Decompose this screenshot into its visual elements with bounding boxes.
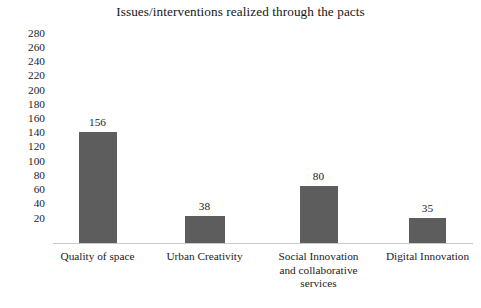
x-axis-category-label-line: Digital Innovation (375, 250, 480, 264)
bar: 35 (409, 218, 446, 243)
bar: 38 (185, 216, 225, 243)
chart-title: Issues/interventions realized through th… (0, 3, 481, 20)
y-axis-tick-label: 240 (5, 57, 45, 68)
y-axis-tick-label: 280 (5, 28, 45, 39)
x-axis-category-label-line: Social Innovation (266, 250, 371, 264)
x-axis-category-label: Quality of space (45, 250, 150, 264)
x-axis-category-label-line: Urban Creativity (152, 250, 257, 264)
y-axis-tick-label: 120 (5, 142, 45, 153)
x-axis-category-label: Urban Creativity (152, 250, 257, 264)
bar-value-label: 35 (422, 202, 433, 214)
y-axis-tick-label: 180 (5, 99, 45, 110)
y-axis-tick-label: 60 (5, 184, 45, 195)
bar: 80 (300, 186, 338, 243)
x-axis-category-label: Social Innovationand collaborativeservic… (266, 250, 371, 291)
y-axis-tick-label: 220 (5, 71, 45, 82)
x-axis-category-label-line: and collaborative (266, 264, 371, 278)
y-axis-tick-label: 260 (5, 42, 45, 53)
y-axis-tick-label: 160 (5, 113, 45, 124)
x-axis-category-label: Digital Innovation (375, 250, 480, 264)
plot-area: 20406080100120140160180200220240260280 1… (53, 38, 473, 244)
bar-chart: Issues/interventions realized through th… (0, 0, 481, 308)
x-axis-category-label-line: services (266, 277, 371, 291)
y-axis-tick-label: 80 (5, 170, 45, 181)
bar-value-label: 38 (199, 200, 210, 212)
y-axis-tick-label: 200 (5, 85, 45, 96)
y-axis-tick-label: 100 (5, 156, 45, 167)
y-axis-tick-label: 40 (5, 199, 45, 210)
bar-value-label: 156 (89, 116, 106, 128)
x-axis-category-label-line: Quality of space (45, 250, 150, 264)
x-axis-line (53, 243, 473, 244)
bar-value-label: 80 (313, 170, 324, 182)
y-axis-tick-label: 20 (5, 213, 45, 224)
y-axis-tick-label: 140 (5, 128, 45, 139)
bar: 156 (79, 132, 117, 243)
